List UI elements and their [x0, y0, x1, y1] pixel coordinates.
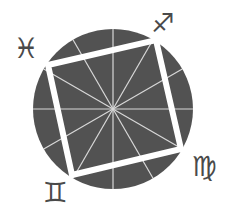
virgo-icon: ♍ [184, 153, 223, 181]
pisces-icon: ♓ [6, 35, 45, 63]
gemini-icon: ♊ [35, 179, 74, 207]
sagittarius-icon: ♐ [145, 10, 181, 36]
